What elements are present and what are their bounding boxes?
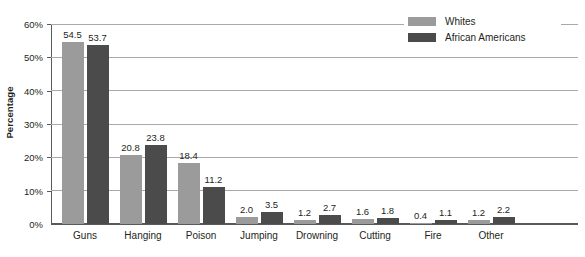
bar-drowning-african-americans — [319, 215, 341, 224]
x-axis-category-label-fire: Fire — [424, 230, 441, 241]
bar-value-label: 3.5 — [265, 199, 278, 210]
bar-fire-whites — [410, 223, 432, 224]
gridline — [51, 57, 578, 58]
bar-value-label: 1.2 — [472, 207, 485, 218]
bar-value-label: 2.0 — [240, 204, 253, 215]
legend-swatch-whites — [408, 17, 436, 26]
bar-value-label: 23.8 — [146, 132, 165, 143]
bar-value-label: 1.8 — [381, 205, 394, 216]
bar-jumping-african-americans — [261, 212, 283, 224]
y-axis-tick-label: 60% — [9, 19, 43, 30]
y-axis-tick-mark — [47, 24, 51, 25]
bar-hanging-whites — [120, 155, 142, 224]
x-axis-category-label-other: Other — [478, 230, 503, 241]
y-axis-tick-mark — [47, 157, 51, 158]
bar-chart-figure: Percentage 0%10%20%30%40%50%60% Whites A… — [0, 0, 585, 257]
y-axis-tick-label: 20% — [9, 152, 43, 163]
y-axis-tick-label: 50% — [9, 52, 43, 63]
x-axis-category-label-jumping: Jumping — [240, 230, 278, 241]
y-axis-tick-label: 40% — [9, 85, 43, 96]
y-axis-tick-mark — [47, 124, 51, 125]
chart-legend: Whites African Americans — [408, 14, 558, 46]
plot-area — [51, 24, 578, 224]
y-axis-tick-label: 30% — [9, 119, 43, 130]
bar-drowning-whites — [294, 220, 316, 224]
x-axis-category-label-guns: Guns — [73, 230, 97, 241]
legend-item-african-americans: African Americans — [408, 30, 558, 44]
y-axis-tick-mark — [47, 91, 51, 92]
bar-guns-whites — [62, 42, 84, 224]
bar-other-whites — [468, 220, 490, 224]
bar-fire-african-americans — [435, 220, 457, 224]
legend-swatch-african-americans — [408, 33, 436, 42]
bar-cutting-whites — [352, 219, 374, 224]
bar-value-label: 53.7 — [88, 32, 107, 43]
bar-cutting-african-americans — [377, 218, 399, 224]
gridline — [51, 124, 578, 125]
bar-value-label: 2.7 — [323, 202, 336, 213]
y-axis-tick-mark — [47, 191, 51, 192]
x-axis-category-label-hanging: Hanging — [124, 230, 161, 241]
bar-guns-african-americans — [87, 45, 109, 224]
legend-label-african-americans: African Americans — [445, 32, 526, 43]
legend-label-whites: Whites — [445, 16, 476, 27]
bar-value-label: 20.8 — [121, 142, 140, 153]
y-axis-tick-mark — [47, 57, 51, 58]
gridline — [51, 90, 578, 91]
bar-poison-african-americans — [203, 187, 225, 224]
bar-value-label: 1.6 — [356, 206, 369, 217]
bar-value-label: 1.1 — [439, 207, 452, 218]
bar-value-label: 2.2 — [497, 204, 510, 215]
bar-value-label: 18.4 — [179, 150, 198, 161]
x-axis-category-label-cutting: Cutting — [359, 230, 391, 241]
bar-value-label: 54.5 — [63, 29, 82, 40]
bar-poison-whites — [178, 163, 200, 224]
bar-value-label: 11.2 — [205, 174, 223, 185]
bar-hanging-african-americans — [145, 145, 167, 224]
x-axis-category-label-poison: Poison — [186, 230, 217, 241]
legend-item-whites: Whites — [408, 14, 558, 28]
bar-jumping-whites — [236, 217, 258, 224]
y-axis-tick-label: 0% — [9, 219, 43, 230]
bar-other-african-americans — [493, 217, 515, 224]
y-axis-tick-label: 10% — [9, 185, 43, 196]
bar-value-label: 0.4 — [414, 210, 427, 221]
x-axis-category-label-drowning: Drowning — [296, 230, 338, 241]
bar-value-label: 1.2 — [298, 207, 311, 218]
